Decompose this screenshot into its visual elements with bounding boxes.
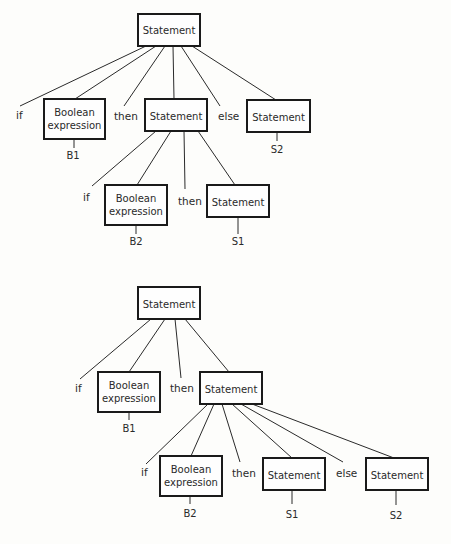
leaf-b1: B1 bbox=[66, 150, 79, 161]
keyword-else: else bbox=[218, 110, 239, 122]
leaf-s2: S2 bbox=[390, 510, 403, 521]
leaf-s2: S2 bbox=[271, 144, 284, 155]
node-label: Statement bbox=[143, 299, 196, 310]
node-label: expression bbox=[164, 477, 218, 488]
statement-node-root: Statement bbox=[138, 14, 200, 46]
tree-1: Statement if Boolean expression B1 then … bbox=[16, 14, 310, 247]
keyword-then: then bbox=[232, 467, 256, 479]
leaf-b1: B1 bbox=[122, 423, 135, 434]
node-label: Statement bbox=[212, 197, 265, 208]
edge bbox=[173, 46, 174, 99]
leaf-s1: S1 bbox=[286, 509, 299, 520]
keyword-else: else bbox=[336, 467, 357, 479]
keyword-if: if bbox=[16, 109, 23, 121]
statement-node: Statement bbox=[200, 372, 262, 404]
boolean-expression-node: Boolean expression bbox=[44, 99, 105, 139]
boolean-expression-node: Boolean expression bbox=[105, 185, 167, 225]
keyword-then: then bbox=[178, 195, 202, 207]
edge bbox=[137, 131, 171, 185]
edge bbox=[192, 46, 276, 100]
edge bbox=[129, 319, 165, 372]
leaf-b2: B2 bbox=[129, 236, 142, 247]
edge bbox=[232, 404, 292, 458]
node-label: Statement bbox=[205, 384, 258, 395]
leaf-b2: B2 bbox=[183, 508, 196, 519]
edge bbox=[175, 319, 181, 378]
statement-node: Statement bbox=[247, 100, 310, 132]
edge bbox=[124, 46, 165, 106]
statement-node: Statement bbox=[207, 185, 269, 217]
node-label: Boolean bbox=[116, 193, 157, 204]
node-label: expression bbox=[102, 393, 156, 404]
statement-node: Statement bbox=[145, 99, 207, 131]
node-label: Boolean bbox=[109, 380, 150, 391]
edge bbox=[198, 131, 235, 185]
edge bbox=[222, 404, 240, 462]
tree-2: Statement if Boolean expression B1 then … bbox=[75, 287, 428, 521]
node-label: expression bbox=[48, 120, 102, 131]
leaf-s1: S1 bbox=[232, 236, 245, 247]
edge bbox=[181, 46, 220, 106]
keyword-then: then bbox=[170, 382, 194, 394]
keyword-then: then bbox=[114, 110, 138, 122]
node-label: Statement bbox=[371, 470, 424, 481]
node-label: expression bbox=[109, 206, 163, 217]
edge bbox=[252, 404, 394, 458]
node-label: Boolean bbox=[54, 107, 95, 118]
keyword-if: if bbox=[141, 466, 148, 478]
edge bbox=[191, 404, 214, 456]
keyword-if: if bbox=[83, 191, 90, 203]
node-label: Statement bbox=[252, 112, 305, 123]
node-label: Statement bbox=[268, 470, 321, 481]
node-label: Statement bbox=[143, 25, 196, 36]
edge bbox=[75, 46, 156, 99]
node-label: Statement bbox=[150, 111, 203, 122]
statement-node-root: Statement bbox=[138, 287, 200, 319]
node-label: Boolean bbox=[171, 464, 212, 475]
boolean-expression-node: Boolean expression bbox=[98, 372, 160, 412]
boolean-expression-node: Boolean expression bbox=[160, 456, 222, 496]
parse-tree-diagram: Statement if Boolean expression B1 then … bbox=[0, 0, 451, 544]
edge bbox=[185, 319, 229, 372]
edge bbox=[80, 319, 151, 379]
keyword-if: if bbox=[75, 382, 82, 394]
edge bbox=[184, 131, 185, 189]
statement-node: Statement bbox=[263, 458, 325, 490]
statement-node: Statement bbox=[366, 458, 428, 490]
edge bbox=[20, 46, 146, 106]
